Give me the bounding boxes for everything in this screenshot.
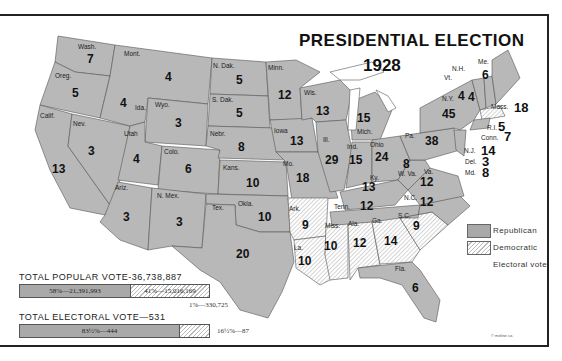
state-votes: 5 (236, 106, 243, 120)
state-votes: 13 (362, 180, 375, 194)
state-label: Ga. (372, 217, 382, 224)
state-label: N.Y. (442, 95, 454, 102)
state-label: N.J. (464, 147, 476, 154)
state-votes: 18 (514, 100, 528, 115)
electoral-dem-bar (179, 324, 210, 338)
state-label: Ala. (348, 220, 359, 227)
state-label: Kans. (223, 164, 240, 171)
legend-republican: Republican (493, 226, 537, 235)
state-label: Ind. (347, 143, 358, 150)
state-votes: 12 (420, 175, 433, 189)
state-label: Md. (465, 169, 476, 176)
state-label: Mich. (357, 128, 373, 135)
state-votes: 8 (238, 140, 245, 154)
state-label: Calif. (40, 112, 55, 119)
legend-note: Electoral vote (493, 260, 547, 269)
state-label: La. (294, 244, 303, 251)
state-label: Oreg. (55, 72, 71, 79)
state-votes: 9 (413, 219, 420, 233)
popular-rep-bar: 58%—21,391,993 (19, 284, 131, 298)
electoral-rep-bar: 83½%—444 (19, 324, 180, 338)
state-label: Minn. (268, 64, 284, 71)
state-label: Utah (124, 130, 138, 137)
state-label: Wash. (78, 43, 96, 50)
state-label: Mo. (283, 160, 294, 167)
state-votes: 20 (236, 247, 249, 261)
state-votes: 4 (165, 70, 172, 84)
state-votes: 4 (458, 89, 465, 103)
state-label: Ark. (289, 205, 301, 212)
state-votes: 13 (52, 162, 65, 176)
state-label: Wis. (304, 89, 317, 96)
state-votes: 10 (298, 254, 311, 268)
state-label: Pa. (405, 132, 415, 139)
state-votes: 5 (72, 86, 79, 100)
state-votes: 13 (316, 104, 329, 118)
electoral-dem: 16½%—87 (217, 327, 249, 335)
state-label: Del. (465, 158, 477, 165)
democratic-swatch (467, 241, 491, 255)
state-votes: 3 (176, 215, 183, 229)
state-label: Conn. (481, 134, 498, 141)
state-votes: 12 (353, 236, 366, 250)
electoral-vote-heading: TOTAL ELECTORAL VOTE—531 (19, 312, 165, 322)
state-votes: 7 (87, 52, 94, 66)
state-label: Nev. (73, 120, 86, 127)
state-votes: 10 (258, 210, 271, 224)
state-votes: 18 (296, 171, 309, 185)
state-votes: 13 (290, 134, 303, 148)
state-label: S.C. (398, 212, 411, 219)
state-label: Okla. (238, 200, 253, 207)
state-votes: 12 (278, 88, 291, 102)
state-votes: 15 (357, 111, 370, 125)
state-votes: 45 (442, 107, 455, 121)
state-votes: 38 (425, 134, 438, 148)
state-votes: 15 (349, 153, 362, 167)
popular-vote-heading: TOTAL POPULAR VOTE-36,738,887 (19, 272, 182, 282)
map-year: 1928 (363, 56, 401, 76)
state-votes: 10 (324, 239, 337, 253)
state-label: Iowa (274, 127, 288, 134)
state-label: Ariz. (115, 184, 128, 191)
state-label: Tenn. (334, 203, 350, 210)
state-votes: 3 (88, 144, 95, 158)
state-votes: 8 (482, 165, 489, 180)
copyright: © meline co. (491, 333, 513, 338)
popular-dem-bar: 41%—15,016,169 (130, 284, 210, 298)
state-votes: 9 (302, 218, 309, 232)
state-label: Mont. (124, 50, 140, 57)
state-label: N. Mex. (157, 192, 179, 199)
state-votes: 5 (236, 73, 243, 87)
state-votes: 29 (325, 153, 338, 167)
state-votes: 3 (175, 116, 182, 130)
state-votes: 6 (482, 68, 489, 82)
state-label: Colo. (164, 148, 179, 155)
popular-other: 1%—330,725 (189, 301, 228, 309)
state-votes: 3 (123, 210, 130, 224)
state-label: Tex. (212, 204, 224, 211)
state-label: N.H. (452, 65, 465, 72)
state-label: Mass. (491, 103, 508, 110)
state-label: Nebr. (210, 130, 226, 137)
state-label: Ohio (370, 141, 384, 148)
state-label: N.C. (404, 194, 417, 201)
state-label: S. Dak. (212, 96, 233, 103)
state-label: Ill. (323, 136, 330, 143)
state-label: Ida. (135, 104, 146, 111)
state-votes: 12 (420, 195, 433, 209)
map-title: PRESIDENTIAL ELECTION (299, 31, 525, 51)
state-votes: 4 (120, 96, 127, 110)
state-votes: 8 (403, 157, 410, 171)
republican-swatch (467, 224, 491, 238)
state-votes: 24 (375, 150, 388, 164)
state-votes: 12 (360, 199, 373, 213)
state-label: Fla. (395, 265, 406, 272)
state-votes: 6 (185, 162, 192, 176)
state-votes: 10 (246, 176, 259, 190)
legend-democratic: Democratic (493, 243, 537, 252)
state-label: R.I. (487, 124, 497, 131)
state-votes: 14 (384, 234, 397, 248)
state-votes: 4 (133, 152, 140, 166)
state-label: W. Va. (398, 170, 417, 177)
state-label: Me. (478, 58, 489, 65)
